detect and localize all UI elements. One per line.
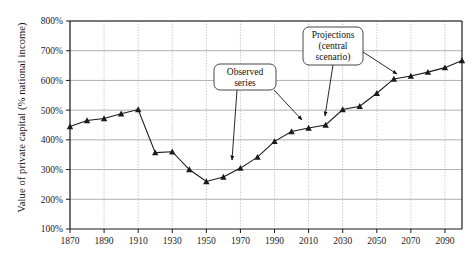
- chart-canvas: 800%700%600%500%400%300%200%100% 1870189…: [0, 0, 473, 262]
- svg-text:1930: 1930: [163, 236, 182, 246]
- callout-projections-central-scenario: Projections(centralscenario): [303, 27, 363, 65]
- callout-observed-series: Observedseries: [214, 64, 276, 90]
- svg-text:2090: 2090: [435, 236, 454, 246]
- callout-line: Observed: [227, 67, 264, 77]
- y-axis-ticks: 800%700%600%500%400%300%200%100%: [41, 16, 70, 234]
- svg-text:400%: 400%: [41, 135, 63, 145]
- svg-text:2070: 2070: [401, 236, 420, 246]
- svg-text:1990: 1990: [265, 236, 284, 246]
- callout-line: Projections: [312, 30, 355, 40]
- x-axis-ticks: 1870189019101930195019701990201020302050…: [61, 229, 455, 246]
- svg-text:600%: 600%: [41, 76, 63, 86]
- svg-text:300%: 300%: [41, 165, 63, 175]
- svg-text:200%: 200%: [41, 195, 63, 205]
- svg-text:1910: 1910: [129, 236, 148, 246]
- svg-text:2050: 2050: [367, 236, 386, 246]
- callout-line: series: [234, 78, 256, 88]
- chart-root: Value of private capital (% national inc…: [0, 0, 473, 262]
- callout-line: (central: [318, 41, 347, 52]
- svg-text:800%: 800%: [41, 16, 63, 26]
- callout-line: scenario): [316, 52, 351, 63]
- svg-text:2010: 2010: [299, 236, 318, 246]
- svg-text:700%: 700%: [41, 46, 63, 56]
- svg-text:1870: 1870: [61, 236, 80, 246]
- gridlines: [70, 21, 462, 229]
- svg-text:2030: 2030: [333, 236, 352, 246]
- svg-text:500%: 500%: [41, 106, 63, 116]
- svg-text:100%: 100%: [41, 224, 63, 234]
- svg-text:1950: 1950: [197, 236, 216, 246]
- svg-text:1970: 1970: [231, 236, 250, 246]
- svg-text:1890: 1890: [95, 236, 114, 246]
- axis-frame: [70, 21, 462, 229]
